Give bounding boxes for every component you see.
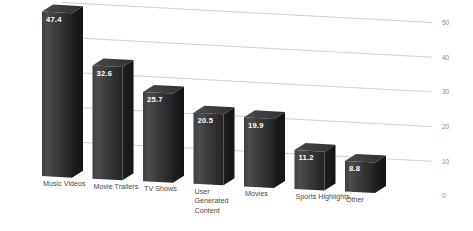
- bar-side-face: [325, 145, 336, 191]
- category-label: Content: [195, 206, 220, 215]
- bar-chart-3d: 50403020100 47.432.625.720.519.911.28.8 …: [0, 0, 473, 231]
- category-label: Movie Trailers: [94, 182, 139, 191]
- bar-side-face: [123, 60, 134, 180]
- category-label: Generated: [195, 196, 229, 205]
- bar-value-label: 19.9: [248, 121, 264, 130]
- bar-6: [295, 143, 336, 190]
- bar-side-face: [224, 107, 235, 185]
- chart-canvas: 50403020100 47.432.625.720.519.911.28.8 …: [0, 0, 473, 231]
- gridline: [62, 37, 432, 57]
- bar-value-label: 47.4: [46, 15, 62, 24]
- category-label: Music Videos: [43, 179, 86, 188]
- y-axis-tick-label: 0: [442, 192, 446, 199]
- y-axis-tick-label: 40: [442, 54, 450, 61]
- bar-value-label: 8.8: [349, 164, 360, 173]
- category-label: TV Shows: [144, 184, 177, 193]
- bar-value-label: 25.7: [147, 95, 163, 104]
- bar-value-label: 32.6: [97, 69, 113, 78]
- bar-side-face: [274, 112, 285, 188]
- bar-7: [345, 154, 386, 193]
- bars: [42, 5, 386, 193]
- y-axis-tick-label: 10: [442, 158, 450, 165]
- category-label: User: [195, 187, 211, 196]
- category-label: Sports Highlights: [296, 192, 351, 201]
- y-axis-tick-label: 20: [442, 123, 450, 130]
- bar-1: [42, 5, 83, 178]
- category-label: Other: [346, 195, 365, 204]
- bar-front-face: [93, 66, 123, 181]
- bar-side-face: [173, 87, 184, 183]
- gridline: [62, 3, 432, 23]
- y-axis-tick-label: 30: [442, 88, 450, 95]
- bar-value-label: 11.2: [299, 153, 314, 162]
- bar-front-face: [143, 92, 173, 183]
- bar-front-face: [42, 12, 72, 178]
- category-label: Movies: [245, 189, 268, 198]
- y-axis-tick-label: 50: [442, 19, 450, 26]
- bar-value-label: 20.5: [198, 116, 214, 125]
- bar-side-face: [72, 6, 83, 177]
- y-axis-tick-labels: 50403020100: [442, 19, 450, 200]
